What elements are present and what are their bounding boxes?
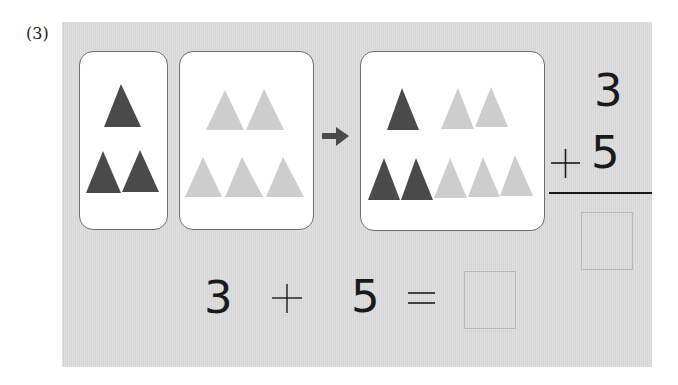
vertical-plus-icon xyxy=(551,149,580,178)
light-triangle-icon xyxy=(185,157,222,197)
sum-answer-box[interactable] xyxy=(581,212,633,270)
sum-bottom-number: 5 xyxy=(591,130,620,175)
equation-right-number: 5 xyxy=(351,274,380,319)
dark-triangle-icon xyxy=(104,84,141,127)
light-triangle-icon xyxy=(434,158,467,198)
equation-plus-icon xyxy=(272,284,302,313)
equals-icon xyxy=(408,293,435,303)
light-triangle-icon xyxy=(225,157,263,197)
equation-answer-box[interactable] xyxy=(464,271,516,329)
light-triangle-icon xyxy=(468,157,500,197)
dark-triangle-icon xyxy=(86,151,121,193)
light-triangle-icon xyxy=(266,157,304,197)
sum-top-number: 3 xyxy=(594,68,623,113)
dark-triangle-icon xyxy=(368,158,400,200)
light-triangle-icon xyxy=(441,88,474,129)
light-triangle-icon xyxy=(500,155,533,196)
light-triangle-icon xyxy=(475,87,508,127)
dark-triangle-icon xyxy=(401,158,433,200)
dark-triangle-icon xyxy=(387,88,419,130)
group-a-triangles xyxy=(86,84,159,193)
right-arrow-icon xyxy=(322,127,349,146)
light-triangle-icon xyxy=(206,90,244,130)
equation-left-number: 3 xyxy=(204,275,233,320)
light-triangle-icon xyxy=(246,89,284,130)
group-total-triangles xyxy=(368,87,533,200)
triangles-layer xyxy=(0,0,678,385)
dark-triangle-icon xyxy=(122,150,159,192)
group-b-triangles xyxy=(185,89,304,197)
